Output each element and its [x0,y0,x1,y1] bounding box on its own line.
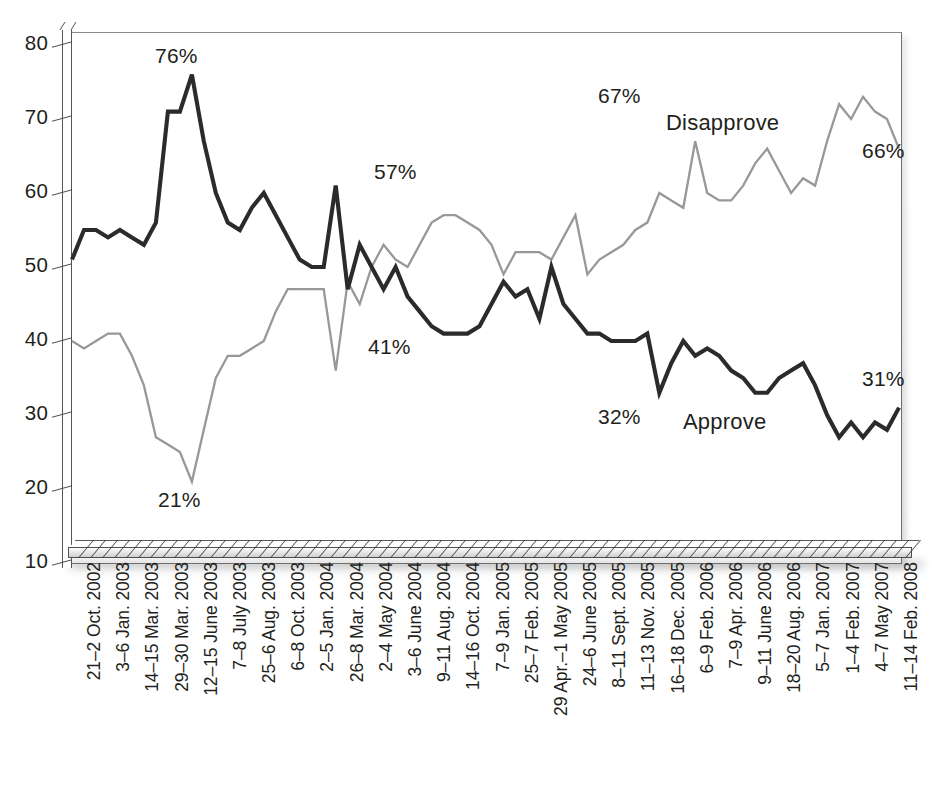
x-axis-label: 3–6 June 2004 [405,562,426,677]
x-axis-label: 6–9 Feb. 2006 [697,562,718,674]
y-tick-label-70: 70 [2,105,48,129]
x-axis-label: 29 Apr.–1 May 2005 [551,562,572,716]
x-axis-label: 1–4 Feb. 2007 [843,562,864,674]
annotation-label-approve: Approve [683,409,766,435]
x-axis-label: 9–11 Aug. 2004 [434,562,455,682]
x-axis-label: 26–8 Mar. 2004 [347,562,368,682]
annotation-peak-approve: 76% [155,44,198,68]
x-axis-label: 5–7 Jan. 2007 [813,562,834,672]
x-axis-label: 4–7 May 2007 [872,562,893,672]
x-axis-label: 29–30 Mar. 2003 [172,562,193,692]
x-axis-label: 7–8 July 2003 [230,562,251,670]
annotation-label-disapprove: Disapprove [666,110,779,136]
x-axis-label: 3–6 Jan. 2003 [113,562,134,672]
x-axis-label: 24–6 June 2005 [580,562,601,686]
x-axis-label: 8–11 Sept. 2005 [609,562,630,688]
x-axis-label: 9–11 June 2006 [755,562,776,685]
x-axis-category-labels: 21–2 Oct. 20023–6 Jan. 200314–15 Mar. 20… [0,562,936,801]
annotation-end-approve: 31% [862,367,905,391]
approval-rating-chart: 8070605040302010 21–2 Oct. 20023–6 Jan. … [0,0,936,801]
x-axis-label: 6–8 Oct. 2003 [288,562,309,671]
x-axis-bar [60,540,918,559]
y-tick-label-40: 40 [2,327,48,351]
annotation-end-disapprove: 66% [862,139,905,163]
annotation-mid-disapprove: 57% [374,160,417,184]
x-axis-label: 25–6 Aug. 2003 [259,562,280,683]
y-tick-label-50: 50 [2,253,48,277]
annotation-late-disapprove: 67% [598,84,641,108]
y-tick-label-80: 80 [2,31,48,55]
annotation-late-approve: 32% [598,405,641,429]
x-axis-label: 7–9 Jan. 2005 [493,562,514,672]
y-tick-label-60: 60 [2,179,48,203]
x-axis-label: 14–15 Mar. 2003 [142,562,163,692]
x-axis-label: 16–18 Dec. 2005 [668,562,689,694]
x-axis-label: 2–4 May 2004 [376,562,397,672]
annotation-trough-disapprove: 21% [158,488,201,512]
x-axis-label: 11–13 Nov. 2005 [638,562,659,691]
x-axis-label: 7–9 Apr. 2006 [726,562,747,669]
y-tick-label-20: 20 [2,475,48,499]
x-axis-label: 21–2 Oct. 2002 [84,562,105,680]
x-axis-label: 14–16 Oct. 2004 [463,562,484,690]
y-tick-label-30: 30 [2,401,48,425]
annotation-mid-approve: 41% [368,335,411,359]
x-axis-label: 11–14 Feb. 2008 [901,562,922,692]
x-axis-label: 18–20 Aug. 2006 [784,562,805,693]
x-axis-label: 2–5 Jan. 2004 [317,562,338,672]
x-axis-label: 12–15 June 2003 [201,562,222,696]
x-axis-label: 25–7 Feb. 2005 [522,562,543,683]
